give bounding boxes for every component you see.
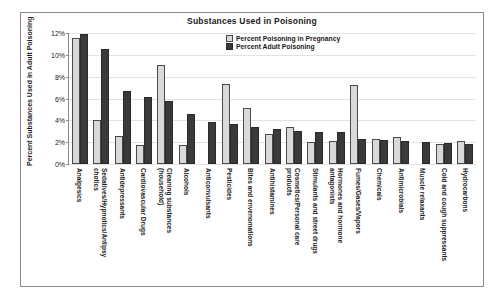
x-axis-label: Antidepressants [111, 167, 132, 295]
x-axis-label: Cold and cough suppressants [433, 167, 454, 295]
x-axis-label-text: Fumes/Gases/Vapors [354, 168, 362, 293]
bar [208, 122, 216, 164]
legend-label-pregnancy: Percent Poisoning in Pregnancy [236, 35, 340, 42]
x-axis-label-text: Sedatives/Hypnotics/Antipsy chotics [93, 168, 108, 293]
bar-group [262, 33, 283, 164]
x-axis-label-text: Hormones and hormone antagonists [329, 168, 344, 293]
bar-group [305, 33, 326, 164]
bar [380, 140, 388, 164]
x-axis-label: Cosmetics/Personal care products [283, 167, 304, 295]
y-axis-title: Percent Substances Used in Adult Poisoni… [23, 31, 37, 151]
bar [273, 129, 281, 164]
x-axis-label-text: Antihistamines [268, 168, 276, 293]
bar [93, 120, 101, 164]
x-axis-label: Hormones and hormone antagonists [326, 167, 347, 295]
bar [457, 141, 465, 164]
x-axis-label-text: Muscle relaxants [418, 168, 426, 293]
chart-title: Substances Used in Poisoning [21, 16, 483, 26]
x-axis-label: Bites and envenomations [240, 167, 261, 295]
legend-swatch-pregnancy [226, 35, 233, 42]
bar [222, 84, 230, 164]
x-axis-label-text: Chemicals [376, 168, 384, 293]
bar-group [412, 33, 433, 164]
x-axis-label: Cardiovascular Drugs [132, 167, 153, 295]
bar [422, 142, 430, 164]
bar [136, 145, 144, 164]
bar [337, 132, 345, 164]
x-axis-labels: AnalgesicsSedatives/Hypnotics/Antipsy ch… [68, 167, 476, 295]
y-axis-tick-label: 12% [51, 30, 65, 37]
bar [444, 143, 452, 164]
x-axis-label: Anticonvulsants [197, 167, 218, 295]
x-axis-label-text: Analgesics [75, 168, 83, 293]
bar-group [69, 33, 90, 164]
bar [187, 114, 195, 164]
x-axis-label-text: Antidepressants [118, 168, 126, 293]
bar [144, 97, 152, 164]
bar [115, 136, 123, 164]
bar [230, 124, 238, 164]
x-axis-label: Hydrocarbons [454, 167, 475, 295]
bar-group [112, 33, 133, 164]
bar [157, 65, 165, 164]
bar [80, 34, 88, 164]
bar-groups [69, 33, 476, 164]
bar-group [90, 33, 111, 164]
bar-group [390, 33, 411, 164]
x-axis-label-text: Cold and cough suppressants [440, 168, 448, 293]
x-axis-label-text: Anticonvulsants [204, 168, 212, 293]
y-axis-title-text: Percent Substances Used in Adult Poisoni… [26, 16, 35, 166]
x-axis-label: Sedatives/Hypnotics/Antipsy chotics [89, 167, 110, 295]
legend-swatch-adult [226, 43, 233, 50]
legend-item-pregnancy: Percent Poisoning in Pregnancy [226, 35, 340, 42]
bar-group [198, 33, 219, 164]
gridline [69, 164, 476, 165]
bar-group [133, 33, 154, 164]
x-axis-label: Chemicals [369, 167, 390, 295]
x-axis-label-text: Stimulants and street drugs [311, 168, 319, 293]
x-axis-label: Antihistamines [261, 167, 282, 295]
y-axis-tick-label: 4% [55, 117, 65, 124]
bar [307, 142, 315, 164]
bar-group [326, 33, 347, 164]
bar [465, 144, 473, 164]
bar [401, 141, 409, 164]
y-axis-tick-label: 0% [55, 161, 65, 168]
bar-group [433, 33, 454, 164]
bar [436, 144, 444, 164]
x-axis-label: Pesticides [218, 167, 239, 295]
bar [294, 131, 302, 164]
x-axis-label: Muscle relaxants [412, 167, 433, 295]
bar [251, 127, 259, 164]
x-axis-label-text: Cosmetics/Personal care products [286, 168, 301, 293]
bar [329, 141, 337, 164]
legend-label-adult: Percent Adult Poisoning [236, 43, 315, 50]
y-axis-tick-mark [66, 164, 69, 165]
x-axis-label-text: Antimicrobials [397, 168, 405, 293]
y-axis-tick-label: 8% [55, 73, 65, 80]
bar [286, 127, 294, 164]
bar [393, 137, 401, 164]
bar [179, 145, 187, 164]
bar-group [347, 33, 368, 164]
bar [72, 38, 80, 164]
x-axis-label: Cleaning substances (household) [154, 167, 175, 295]
bar-group [283, 33, 304, 164]
bar [265, 134, 273, 164]
bar-group [369, 33, 390, 164]
plot-area: 12%10%8%6%4%2%0% [68, 33, 476, 165]
y-axis-tick-label: 6% [55, 95, 65, 102]
bar-group [155, 33, 176, 164]
legend-item-adult: Percent Adult Poisoning [226, 43, 340, 50]
bar-group [455, 33, 476, 164]
bar [358, 139, 366, 164]
bar [243, 108, 251, 164]
x-axis-label-text: Bites and envenomations [247, 168, 255, 293]
x-axis-label: Fumes/Gases/Vapors [347, 167, 368, 295]
bar [315, 132, 323, 164]
bar [372, 139, 380, 164]
chart-legend: Percent Poisoning in Pregnancy Percent A… [226, 35, 340, 51]
bar [350, 85, 358, 164]
x-axis-label-text: Cleaning substances (household) [157, 168, 172, 293]
chart-frame: Substances Used in Poisoning Percent Sub… [20, 12, 484, 287]
